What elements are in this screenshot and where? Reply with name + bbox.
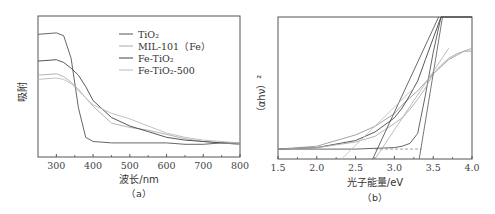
legend-label: MIL-101（Fe） — [138, 41, 211, 52]
chart-b-x-axis-title: 光子能量/eV — [347, 176, 404, 188]
chart-a-x-axis-title: 波长/nm — [119, 173, 158, 185]
series-line-mil-101-fe- — [38, 74, 240, 145]
x-tick-label: 500 — [121, 160, 139, 171]
series-line-fe-tio- — [278, 17, 472, 149]
series-line-fe-tio-500 — [38, 78, 240, 143]
x-tick-label: 600 — [157, 160, 175, 171]
x-tick-label: 700 — [194, 160, 212, 171]
chart-b-curves — [278, 17, 472, 159]
x-tick-label: 1.5 — [270, 162, 285, 173]
x-tick-label: 800 — [231, 160, 249, 171]
series-line-mil-101-fe- — [278, 51, 472, 149]
chart-b-frame — [278, 17, 472, 159]
x-tick-label: 300 — [47, 160, 65, 171]
x-tick-label: 4.0 — [464, 162, 479, 173]
figure-canvas: 300400500600700800 TiO₂MIL-101（Fe）Fe-TiO… — [0, 0, 495, 214]
chart-b-y-axis-title: （αhν）² — [256, 75, 267, 118]
series-line-fe-tio-500 — [278, 48, 472, 149]
tangent-line — [375, 48, 449, 159]
chart-a-y-axis-title: 吸附 — [16, 82, 28, 102]
series-line-tio- — [278, 17, 472, 149]
chart-a-legend: TiO₂MIL-101（Fe）Fe-TiO₂Fe-TiO₂-500 — [119, 29, 211, 76]
x-tick-label: 2.5 — [348, 162, 363, 173]
chart-a: 300400500600700800 TiO₂MIL-101（Fe）Fe-TiO… — [16, 16, 249, 199]
x-tick-label: 3.0 — [387, 162, 402, 173]
x-tick-label: 400 — [84, 160, 102, 171]
legend-label: Fe-TiO₂ — [138, 53, 174, 64]
chart-b-panel-label: （b） — [362, 192, 388, 203]
tangent-line — [373, 17, 439, 159]
x-tick-label: 2.0 — [309, 162, 324, 173]
legend-label: Fe-TiO₂-500 — [138, 65, 195, 76]
x-tick-label: 3.5 — [426, 162, 441, 173]
legend-label: TiO₂ — [138, 29, 159, 40]
chart-a-panel-label: （a） — [126, 188, 152, 199]
chart-b: 1.52.02.53.03.54.0 光子能量/eV （αhν）² （b） — [256, 17, 480, 203]
